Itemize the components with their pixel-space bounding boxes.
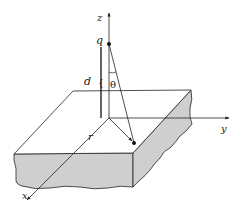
y-axis-label: y xyxy=(220,123,227,134)
theta-arc xyxy=(109,72,116,73)
theta-label: θ xyxy=(110,79,116,90)
charge-point xyxy=(107,42,111,46)
brace-mark: { xyxy=(98,78,104,88)
x-axis-label: x xyxy=(22,190,28,201)
slab-front-face xyxy=(14,153,133,189)
charge-plane-diagram: { z y x q d θ r xyxy=(0,0,239,215)
charge-label: q xyxy=(96,34,103,47)
z-axis-label: z xyxy=(96,12,103,23)
distance-label: d xyxy=(84,75,91,88)
surface-point xyxy=(132,141,136,145)
